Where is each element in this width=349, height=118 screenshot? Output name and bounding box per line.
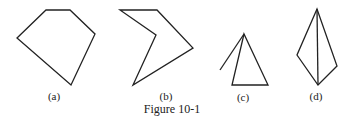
label-a: (a) (48, 90, 60, 102)
figure-caption: Figure 10-1 (144, 103, 200, 116)
label-c: (c) (237, 91, 249, 103)
shape-b-concave-pentagon (120, 10, 193, 85)
label-b: (b) (160, 90, 173, 102)
shape-a-convex-pentagon (17, 10, 95, 85)
shape-d-quadrilateral-with-diagonal (297, 9, 337, 85)
shape-c-triangle-with-segment (220, 34, 268, 85)
label-d: (d) (310, 90, 323, 102)
